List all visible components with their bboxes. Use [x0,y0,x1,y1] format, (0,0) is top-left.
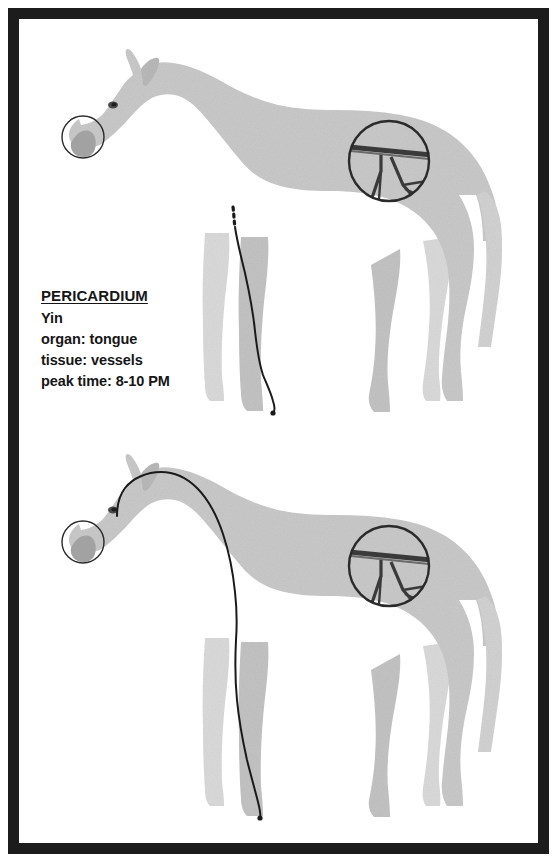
panel-pericardium: PERICARDIUM Yin organ: tongue tissue: ve… [19,19,538,424]
horse-illustration-triple-heater [19,424,538,824]
near-front-leg [239,642,269,816]
panel-triple-heater: TRIPLE HEATER Yang organ: tongue tissue:… [19,424,538,842]
tail [477,191,502,347]
legend-organ-pericardium: organ: tongue [41,329,170,350]
legend-tissue-pericardium: tissue: vessels [41,350,170,371]
near-hind-leg [369,654,401,817]
eye-pupil [111,508,116,512]
chart-frame: PERICARDIUM Yin organ: tongue tissue: ve… [8,8,549,854]
meridian-endpoint [257,815,262,820]
legend-polarity-pericardium: Yin [41,308,170,329]
far-front-leg [203,233,230,401]
far-front-leg [203,638,230,806]
tail [477,596,502,752]
legend-title-pericardium: PERICARDIUM [41,285,148,306]
legend-peaktime-pericardium: peak time: 8-10 PM [41,371,170,392]
near-hind-leg [369,249,401,412]
legend-pericardium: PERICARDIUM Yin organ: tongue tissue: ve… [41,285,170,392]
chart-page: PERICARDIUM Yin organ: tongue tissue: ve… [0,0,557,862]
meridian-endpoint [270,410,275,415]
eye-pupil [111,103,116,107]
